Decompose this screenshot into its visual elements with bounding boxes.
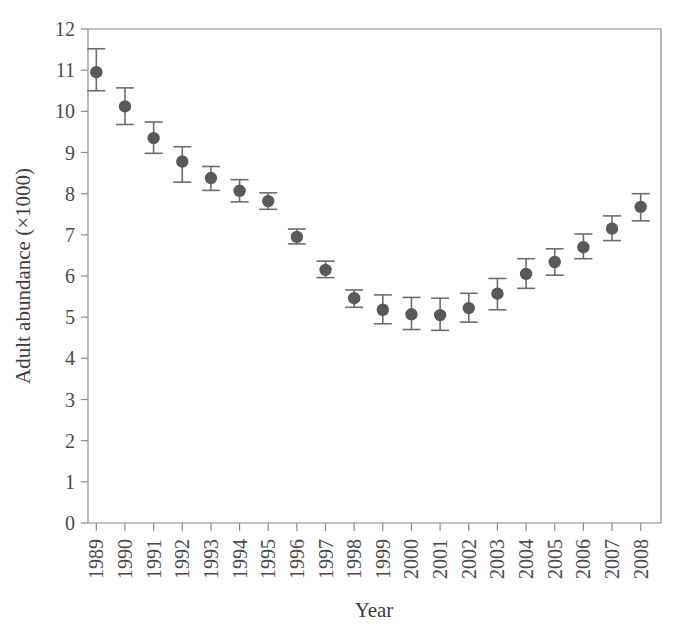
data-point — [577, 241, 589, 253]
y-tick-label: 10 — [55, 100, 75, 122]
x-tick-label: 2004 — [515, 539, 537, 579]
y-tick-label: 1 — [65, 471, 75, 493]
y-tick-label: 4 — [65, 347, 75, 369]
x-tick-label: 1998 — [343, 539, 365, 579]
x-tick-label: 2003 — [486, 539, 508, 579]
x-tick-label: 1992 — [171, 539, 193, 579]
x-tick-label: 1993 — [200, 539, 222, 579]
y-tick-label: 0 — [65, 512, 75, 534]
x-tick-label: 2000 — [400, 539, 422, 579]
y-tick-label: 3 — [65, 389, 75, 411]
y-tick-label: 12 — [55, 18, 75, 40]
data-point — [463, 302, 475, 314]
x-tick-label: 2002 — [458, 539, 480, 579]
data-point — [491, 288, 503, 300]
data-point — [434, 309, 446, 321]
data-point — [549, 256, 561, 268]
data-point — [233, 185, 245, 197]
x-tick-label: 1995 — [257, 539, 279, 579]
x-tick-label: 2005 — [544, 539, 566, 579]
data-point — [119, 100, 131, 112]
chart-background — [0, 0, 683, 632]
data-point — [520, 268, 532, 280]
data-point — [348, 292, 360, 304]
y-tick-label: 6 — [65, 265, 75, 287]
y-tick-label: 8 — [65, 183, 75, 205]
abundance-scatter-plot: 0123456789101112 19891990199119921993199… — [0, 0, 683, 632]
data-point — [606, 222, 618, 234]
x-tick-label: 2006 — [572, 539, 594, 579]
x-tick-label: 2008 — [630, 539, 652, 579]
x-axis-title: Year — [355, 598, 394, 622]
y-axis-title: Adult abundance (×1000) — [11, 168, 35, 384]
chart-figure: 0123456789101112 19891990199119921993199… — [0, 0, 683, 632]
y-tick-label: 2 — [65, 430, 75, 452]
x-tick-label: 1990 — [114, 539, 136, 579]
x-tick-label: 1991 — [143, 539, 165, 579]
x-tick-label: 1999 — [372, 539, 394, 579]
y-tick-label: 7 — [65, 224, 75, 246]
x-tick-label: 1989 — [85, 539, 107, 579]
x-tick-label: 2007 — [601, 539, 623, 579]
x-tick-label: 2001 — [429, 539, 451, 579]
data-point — [291, 231, 303, 243]
data-point — [319, 264, 331, 276]
data-point — [147, 132, 159, 144]
data-point — [377, 304, 389, 316]
x-tick-label: 1994 — [229, 539, 251, 579]
data-point — [405, 308, 417, 320]
x-tick-label: 1997 — [315, 539, 337, 579]
y-tick-label: 11 — [56, 59, 75, 81]
data-point — [176, 155, 188, 167]
data-point — [634, 201, 646, 213]
x-tick-label: 1996 — [286, 539, 308, 579]
data-point — [90, 66, 102, 78]
y-tick-label: 5 — [65, 306, 75, 328]
y-tick-label: 9 — [65, 142, 75, 164]
data-point — [262, 195, 274, 207]
data-point — [205, 172, 217, 184]
